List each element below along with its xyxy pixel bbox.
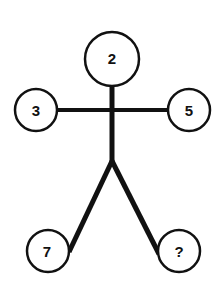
stick-figure-diagram: 2 3 5 7 ? — [0, 0, 223, 298]
right-hand-number: 5 — [185, 102, 193, 119]
left-hand-number: 3 — [32, 102, 40, 119]
left-leg-line — [69, 161, 112, 252]
head-number: 2 — [108, 50, 116, 67]
right-leg-line — [112, 161, 159, 254]
left-foot-number: 7 — [43, 243, 51, 260]
right-foot-unknown: ? — [174, 243, 183, 260]
